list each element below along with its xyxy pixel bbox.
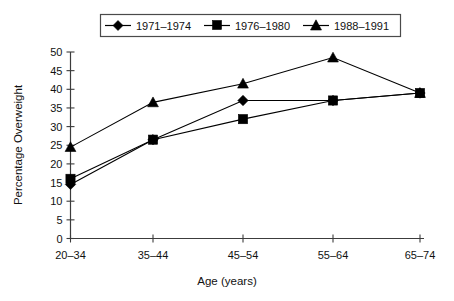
- y-axis-title: Percentage Overweight: [12, 84, 24, 205]
- series-line: [71, 93, 421, 179]
- x-tick-label: 65–74: [405, 249, 436, 261]
- y-tick-label: 35: [50, 102, 62, 114]
- overweight-line-chart: 1971–1974 1976–1980 1988–1991 0510152025…: [0, 0, 454, 301]
- triangle-marker-icon: [328, 52, 339, 62]
- y-tick-label: 40: [50, 83, 62, 95]
- square-marker-icon: [213, 21, 222, 30]
- square-marker-icon: [148, 135, 157, 144]
- y-tick-label: 45: [50, 65, 62, 77]
- series-1971–1974: [65, 88, 425, 190]
- legend-label-1988-1991: 1988–1991: [334, 20, 389, 32]
- diamond-marker-icon: [238, 95, 248, 105]
- x-tick-label: 45–54: [228, 249, 259, 261]
- triangle-marker-icon: [238, 78, 249, 88]
- y-tick-label: 0: [56, 233, 62, 245]
- y-tick-label: 15: [50, 177, 62, 189]
- y-tick-label: 5: [56, 214, 62, 226]
- chart-container: 1971–1974 1976–1980 1988–1991 0510152025…: [0, 0, 454, 301]
- square-marker-icon: [66, 174, 75, 183]
- legend-label-1976-1980: 1976–1980: [235, 20, 290, 32]
- y-tick-label: 10: [50, 195, 62, 207]
- legend-entry-1988-1991[interactable]: 1988–1991: [303, 20, 389, 32]
- x-tick-label: 20–34: [55, 249, 86, 261]
- legend-entry-1971-1974[interactable]: 1971–1974: [105, 20, 191, 32]
- chart-legend: 1971–1974 1976–1980 1988–1991: [101, 15, 401, 37]
- x-tick-label: 35–44: [138, 249, 169, 261]
- square-marker-icon: [238, 115, 247, 124]
- legend-label-1971-1974: 1971–1974: [136, 20, 191, 32]
- square-marker-icon: [328, 96, 337, 105]
- y-tick-label: 20: [50, 158, 62, 170]
- x-axis-title: Age (years): [197, 275, 257, 287]
- y-tick-label: 50: [50, 46, 62, 58]
- legend-entry-1976-1980[interactable]: 1976–1980: [204, 20, 290, 32]
- y-tick-label: 30: [50, 121, 62, 133]
- y-tick-label: 25: [50, 139, 62, 151]
- triangle-marker-icon: [65, 142, 76, 152]
- chart-series-layer: [65, 52, 425, 189]
- series-line: [71, 93, 421, 184]
- x-tick-label: 55–64: [318, 249, 349, 261]
